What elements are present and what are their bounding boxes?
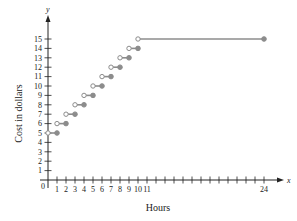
x-tick-label: 3: [73, 185, 77, 194]
closed-endpoint: [64, 121, 69, 126]
y-tick-label: 9: [38, 91, 42, 100]
y-tick-label: 10: [34, 82, 42, 91]
open-endpoint: [64, 112, 68, 116]
x-tick-label: 1: [55, 185, 59, 194]
y-tick-label: 11: [34, 72, 42, 81]
x-tick-label: 11: [143, 185, 151, 194]
y-tick-label: 12: [34, 63, 42, 72]
step-segment: [109, 65, 122, 70]
closed-endpoint: [118, 65, 123, 70]
x-ticks: 123456789101124: [55, 177, 268, 195]
closed-endpoint: [127, 56, 132, 61]
origin-label: 0: [41, 182, 45, 191]
step-segment: [82, 93, 95, 98]
closed-endpoint: [73, 112, 78, 117]
closed-endpoint: [136, 46, 141, 51]
x-tick-label: 5: [91, 185, 95, 194]
y-tick-label: 6: [38, 119, 42, 128]
closed-endpoint: [100, 84, 105, 89]
y-tick-label: 2: [38, 157, 42, 166]
series-cost: [46, 37, 267, 136]
open-endpoint: [136, 37, 140, 41]
x-tick-label: 9: [127, 185, 131, 194]
x-axis-variable: x: [286, 176, 291, 185]
y-ticks: 123456789101112131415: [34, 35, 52, 176]
open-endpoint: [46, 131, 50, 135]
y-tick-label: 15: [34, 35, 42, 44]
step-segment: [46, 131, 60, 136]
open-endpoint: [82, 93, 86, 97]
step-segment: [127, 46, 141, 51]
y-axis-title: Cost in dollars: [13, 84, 24, 142]
closed-endpoint: [82, 103, 87, 108]
y-tick-label: 4: [38, 138, 42, 147]
step-segment: [100, 74, 113, 79]
step-segment: [136, 37, 267, 42]
y-tick-label: 7: [38, 110, 42, 119]
x-axis-title: Hours: [146, 202, 171, 213]
step-segment: [73, 103, 86, 108]
x-tick-label: 24: [260, 185, 268, 194]
x-tick-label: 8: [118, 185, 122, 194]
y-tick-label: 5: [38, 129, 42, 138]
y-tick-label: 13: [34, 54, 42, 63]
x-tick-label: 7: [109, 185, 113, 194]
axes: x y 0: [40, 5, 291, 191]
open-endpoint: [109, 65, 113, 69]
x-tick-label: 6: [100, 185, 104, 194]
open-endpoint: [91, 84, 95, 88]
y-tick-label: 14: [34, 44, 42, 53]
y-tick-label: 3: [38, 148, 42, 157]
y-axis-arrow-icon: [46, 15, 51, 22]
open-endpoint: [100, 74, 104, 78]
x-tick-label: 10: [134, 185, 142, 194]
closed-endpoint: [55, 131, 60, 136]
step-segment: [118, 56, 132, 61]
y-tick-label: 8: [38, 101, 42, 110]
y-axis-variable: y: [45, 5, 50, 14]
y-tick-label: 1: [38, 166, 42, 175]
open-endpoint: [55, 121, 59, 125]
step-function-chart: x y 0 123456789101124 123456789101112131…: [0, 0, 297, 221]
closed-endpoint: [109, 74, 114, 79]
closed-endpoint: [91, 93, 96, 98]
x-tick-label: 2: [64, 185, 68, 194]
x-tick-label: 4: [82, 185, 86, 194]
step-segment: [91, 84, 104, 89]
open-endpoint: [127, 46, 131, 50]
open-endpoint: [73, 103, 77, 107]
step-segment: [64, 112, 77, 117]
step-segment: [55, 121, 69, 126]
open-endpoint: [118, 56, 122, 60]
x-axis-arrow-icon: [277, 178, 284, 183]
closed-endpoint: [262, 37, 267, 42]
